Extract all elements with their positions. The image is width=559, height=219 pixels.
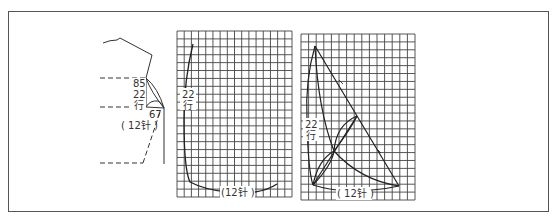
grid2-rows-unit: 行 <box>306 129 316 141</box>
overview-labels: 85 22 行 67 ( 12针 ) <box>121 78 162 131</box>
label-67: 67 <box>149 109 162 120</box>
grid1-rows-unit: 行 <box>183 99 193 111</box>
grid1-stitches: (12针 ) <box>221 186 255 198</box>
label-rows-unit: 行 <box>134 99 144 111</box>
grid1-rows-value: 22 <box>182 89 195 100</box>
label-85: 85 <box>133 78 146 89</box>
grid-armhole-curve: 22 行 (12针 ) <box>177 31 292 199</box>
grid2-stitches: ( 12针 ) <box>337 187 374 199</box>
grid2-rows-value: 22 <box>305 119 318 130</box>
label-rows-value: 22 <box>133 89 146 100</box>
diagram-canvas: 85 22 行 67 ( 12针 ) 22 行 (12针 ) <box>0 0 559 219</box>
label-stitches: ( 12针 ) <box>121 119 158 131</box>
grid-sleeve-cap: 22 行 ( 12针 ) <box>301 34 415 200</box>
